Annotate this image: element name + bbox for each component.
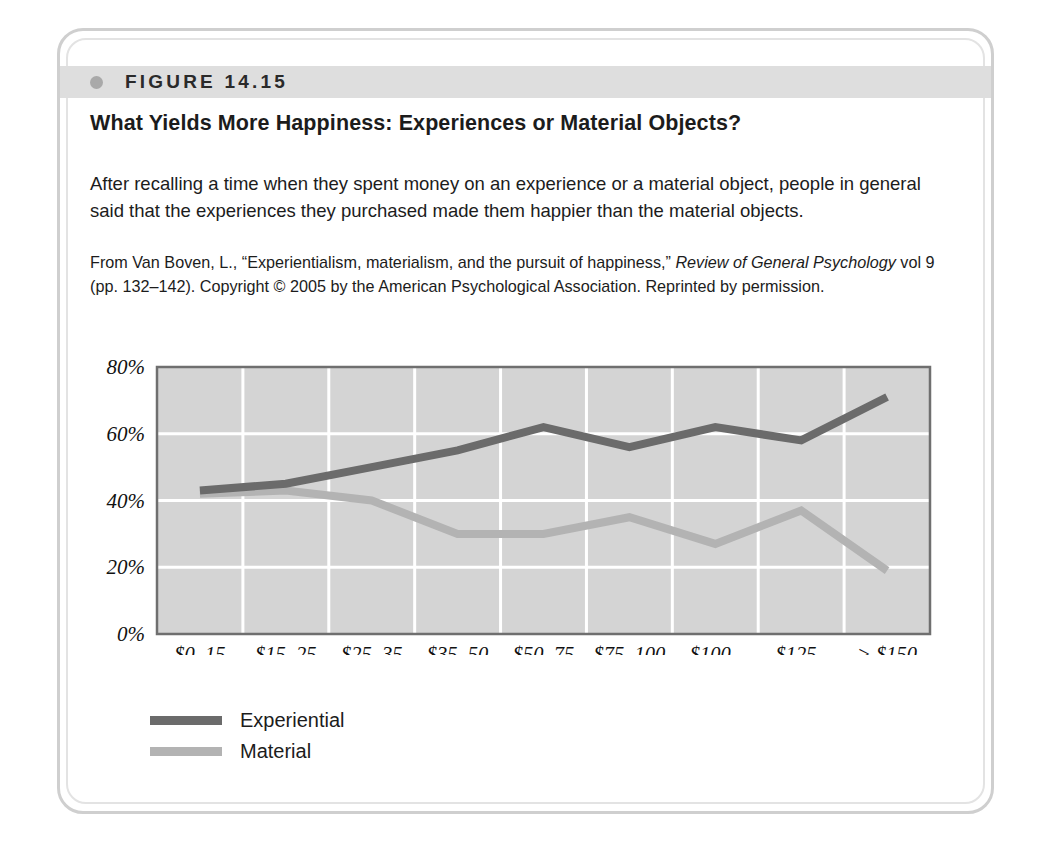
bullet-icon bbox=[90, 76, 103, 89]
source-prefix: From Van Boven, L., “Experientialism, ma… bbox=[90, 253, 675, 271]
x-tick-label: $25–35 bbox=[341, 643, 403, 655]
chart-svg: 0%20%40%60%80% $0–15$15–25$25–35$35–50$5… bbox=[78, 355, 958, 655]
x-tick-label: $0–15 bbox=[174, 643, 225, 655]
legend-label-material: Material bbox=[240, 740, 311, 763]
y-tick-label: 60% bbox=[107, 422, 146, 446]
legend-item-material: Material bbox=[150, 736, 470, 767]
y-tick-label: 20% bbox=[107, 555, 146, 579]
figure-title: What Yields More Happiness: Experiences … bbox=[90, 111, 930, 136]
legend-label-experiential: Experiential bbox=[240, 709, 345, 732]
legend-swatch-material bbox=[150, 747, 222, 756]
legend-swatch-experiential bbox=[150, 716, 222, 725]
chart: 0%20%40%60%80% $0–15$15–25$25–35$35–50$5… bbox=[78, 355, 958, 655]
y-tick-label: 80% bbox=[107, 355, 146, 379]
x-axis-labels: $0–15$15–25$25–35$35–50$50–75$75–100$100… bbox=[174, 643, 917, 655]
y-tick-label: 40% bbox=[107, 489, 146, 513]
x-tick-label: $50–75 bbox=[513, 643, 575, 655]
source-journal: Review of General Psychology bbox=[675, 253, 895, 271]
figure-number: FIGURE 14.15 bbox=[125, 71, 288, 93]
figure-caption: After recalling a time when they spent m… bbox=[90, 170, 942, 224]
x-tick-label: $35–50 bbox=[427, 643, 489, 655]
x-tick-label: $125– bbox=[776, 643, 828, 655]
x-tick-label: $100– bbox=[690, 643, 742, 655]
y-axis-labels: 0%20%40%60%80% bbox=[107, 355, 146, 646]
x-tick-label: $75–100 bbox=[594, 643, 666, 655]
figure-source-note: From Van Boven, L., “Experientialism, ma… bbox=[90, 250, 946, 298]
chart-legend: Experiential Material bbox=[150, 705, 470, 767]
legend-item-experiential: Experiential bbox=[150, 705, 470, 736]
figure-number-band: FIGURE 14.15 bbox=[60, 66, 991, 98]
x-tick-label: > $150 bbox=[857, 643, 917, 655]
x-tick-label: $15–25 bbox=[255, 643, 317, 655]
y-tick-label: 0% bbox=[117, 622, 145, 646]
